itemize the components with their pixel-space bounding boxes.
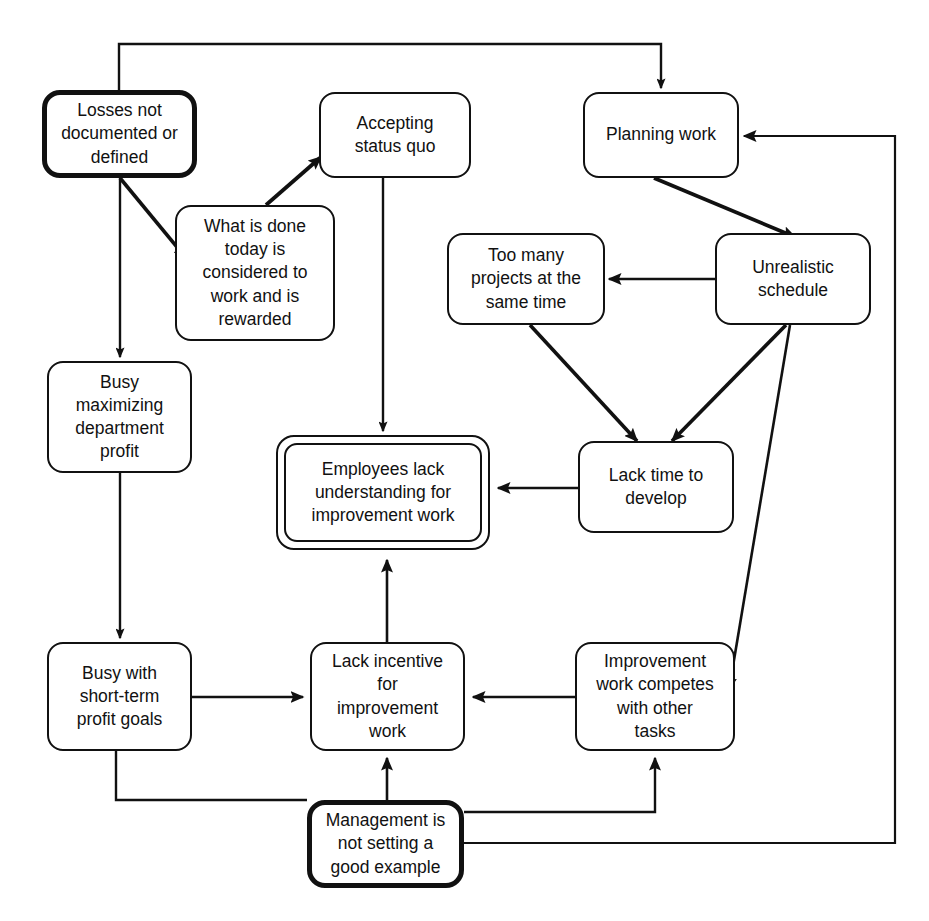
node-label: Too many projects at the same time (471, 244, 581, 313)
edge-management-to-improvement-competes (464, 758, 655, 812)
node-what-is-done-today[interactable]: What is done today is considered to work… (175, 205, 335, 341)
node-label: Losses not documented or defined (61, 99, 178, 168)
node-employees-lack-understanding[interactable]: Employees lack understanding for improve… (276, 435, 490, 550)
node-label: Lack time to develop (609, 464, 703, 510)
edge-what-is-done-to-accepting (266, 157, 321, 205)
node-inner-frame: Employees lack understanding for improve… (284, 443, 482, 542)
node-label: Improvement work competes with other tas… (596, 650, 714, 742)
node-label: Planning work (606, 123, 716, 146)
node-label: Unrealistic schedule (752, 256, 834, 302)
node-losses-not-documented[interactable]: Losses not documented or defined (42, 90, 197, 178)
node-accepting-status-quo[interactable]: Accepting status quo (319, 92, 471, 178)
node-planning-work[interactable]: Planning work (583, 92, 739, 178)
edge-unrealistic-to-improvement-competes (729, 325, 790, 690)
node-label: Lack incentive for improvement work (332, 650, 443, 742)
node-lack-time-to-develop[interactable]: Lack time to develop (578, 441, 734, 533)
node-too-many-projects[interactable]: Too many projects at the same time (447, 233, 605, 325)
node-busy-with-short-term-profit-goals[interactable]: Busy with short-term profit goals (47, 642, 192, 751)
node-label: What is done today is considered to work… (202, 215, 307, 330)
edge-too-many-to-lack-time (530, 325, 637, 441)
node-lack-incentive-for-improvement-work[interactable]: Lack incentive for improvement work (310, 642, 465, 751)
node-unrealistic-schedule[interactable]: Unrealistic schedule (715, 233, 871, 325)
node-label: Busy with short-term profit goals (77, 662, 163, 731)
node-management-not-setting-good-example[interactable]: Management is not setting a good example (307, 800, 464, 888)
edge-unrealistic-to-lack-time (672, 325, 786, 441)
node-label: Busy maximizing department profit (75, 371, 164, 463)
flowchart-canvas: Losses not documented or defined What is… (0, 0, 929, 921)
node-label: Management is not setting a good example (326, 809, 446, 878)
edge-busy-short-to-management (116, 751, 307, 800)
node-label: Employees lack understanding for improve… (312, 458, 455, 527)
node-label: Accepting status quo (355, 112, 436, 158)
edge-planning-to-unrealistic (654, 178, 795, 237)
node-improvement-work-competes[interactable]: Improvement work competes with other tas… (575, 642, 735, 751)
edge-losses-to-planning (119, 44, 661, 90)
node-busy-maximizing-department-profit[interactable]: Busy maximizing department profit (47, 361, 192, 473)
